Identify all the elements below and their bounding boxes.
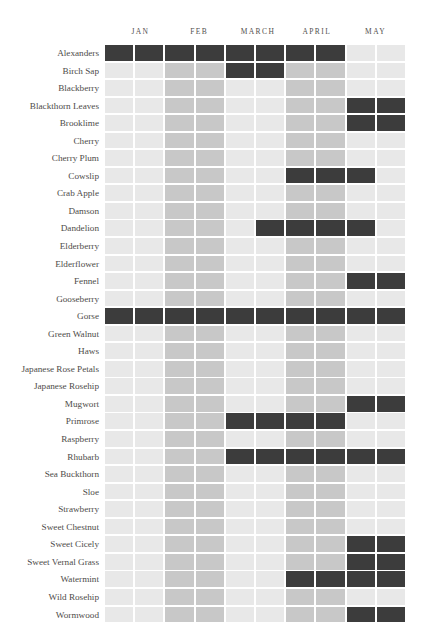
row-cells <box>105 501 405 519</box>
table-row: Cowslip <box>0 168 421 186</box>
row-label-japanese-rosehip: Japanese Rosehip <box>0 378 105 396</box>
month-label-feb: FEB <box>170 24 229 40</box>
heatmap-cell <box>165 413 193 429</box>
heatmap-cell <box>226 256 254 272</box>
heatmap-cell <box>377 607 405 623</box>
heatmap-cell <box>226 607 254 623</box>
heatmap-cell <box>256 63 284 79</box>
heatmap-cell <box>256 519 284 535</box>
heatmap-cell <box>105 536 133 552</box>
heatmap-cell <box>347 185 375 201</box>
heatmap-cell <box>135 396 163 412</box>
row-cells <box>105 607 405 624</box>
heatmap-cell <box>135 168 163 184</box>
heatmap-cell <box>135 326 163 342</box>
heatmap-cell <box>286 168 314 184</box>
row-label-strawberry: Strawberry <box>0 501 105 519</box>
heatmap-cell <box>135 80 163 96</box>
heatmap-cell <box>196 589 224 605</box>
heatmap-cell <box>316 343 344 359</box>
row-cells <box>105 45 405 63</box>
heatmap-cell <box>105 115 133 131</box>
table-row: Japanese Rose Petals <box>0 361 421 379</box>
heatmap-cell <box>347 291 375 307</box>
table-row: Gorse <box>0 308 421 326</box>
table-row: Dandelion <box>0 220 421 238</box>
table-row: Haws <box>0 343 421 361</box>
heatmap-cell <box>316 168 344 184</box>
heatmap-cell <box>256 501 284 517</box>
heatmap-cell <box>135 466 163 482</box>
heatmap-cell <box>316 133 344 149</box>
heatmap-cell <box>377 484 405 500</box>
heatmap-cell <box>196 220 224 236</box>
heatmap-cell <box>105 361 133 377</box>
heatmap-cell <box>316 554 344 570</box>
row-cells <box>105 413 405 431</box>
row-cells <box>105 343 405 361</box>
heatmap-cell <box>286 220 314 236</box>
heatmap-cell <box>135 361 163 377</box>
heatmap-cell <box>105 168 133 184</box>
heatmap-cell <box>165 150 193 166</box>
row-label-mugwort: Mugwort <box>0 396 105 414</box>
heatmap-cell <box>226 484 254 500</box>
heatmap-cell <box>286 115 314 131</box>
heatmap-cell <box>226 466 254 482</box>
heatmap-cell <box>165 361 193 377</box>
heatmap-cell <box>165 291 193 307</box>
table-row: Green Walnut <box>0 326 421 344</box>
availability-grid: AlexandersBirch SapBlackberryBlackthorn … <box>0 45 421 624</box>
heatmap-cell <box>286 466 314 482</box>
heatmap-cell <box>347 501 375 517</box>
heatmap-cell <box>377 326 405 342</box>
table-row: Fennel <box>0 273 421 291</box>
heatmap-cell <box>165 45 193 61</box>
heatmap-cell <box>165 308 193 324</box>
row-cells <box>105 308 405 326</box>
heatmap-cell <box>226 396 254 412</box>
heatmap-cell <box>256 291 284 307</box>
row-label-cherry-plum: Cherry Plum <box>0 150 105 168</box>
table-row: Elderberry <box>0 238 421 256</box>
heatmap-cell <box>226 343 254 359</box>
heatmap-cell <box>256 238 284 254</box>
heatmap-cell <box>226 431 254 447</box>
heatmap-cell <box>196 256 224 272</box>
heatmap-cell <box>316 501 344 517</box>
heatmap-cell <box>256 80 284 96</box>
heatmap-cell <box>377 133 405 149</box>
table-row: Cherry <box>0 133 421 151</box>
heatmap-cell <box>316 291 344 307</box>
heatmap-cell <box>135 449 163 465</box>
heatmap-cell <box>316 361 344 377</box>
heatmap-cell <box>256 413 284 429</box>
heatmap-cell <box>105 185 133 201</box>
heatmap-cell <box>135 133 163 149</box>
heatmap-cell <box>226 589 254 605</box>
heatmap-cell <box>347 413 375 429</box>
heatmap-cell <box>135 431 163 447</box>
table-row: Mugwort <box>0 396 421 414</box>
heatmap-cell <box>286 45 314 61</box>
heatmap-cell <box>347 308 375 324</box>
heatmap-cell <box>316 431 344 447</box>
table-row: Blackthorn Leaves <box>0 98 421 116</box>
heatmap-cell <box>316 396 344 412</box>
heatmap-cell <box>226 273 254 289</box>
heatmap-cell <box>347 133 375 149</box>
heatmap-cell <box>286 519 314 535</box>
heatmap-cell <box>256 273 284 289</box>
heatmap-cell <box>256 326 284 342</box>
table-row: Watermint <box>0 571 421 589</box>
heatmap-cell <box>196 361 224 377</box>
heatmap-cell <box>316 203 344 219</box>
row-label-wild-rosehip: Wild Rosehip <box>0 589 105 607</box>
heatmap-cell <box>316 378 344 394</box>
heatmap-cell <box>347 203 375 219</box>
row-cells <box>105 554 405 572</box>
heatmap-cell <box>286 150 314 166</box>
heatmap-cell <box>286 361 314 377</box>
heatmap-cell <box>286 203 314 219</box>
heatmap-cell <box>347 536 375 552</box>
